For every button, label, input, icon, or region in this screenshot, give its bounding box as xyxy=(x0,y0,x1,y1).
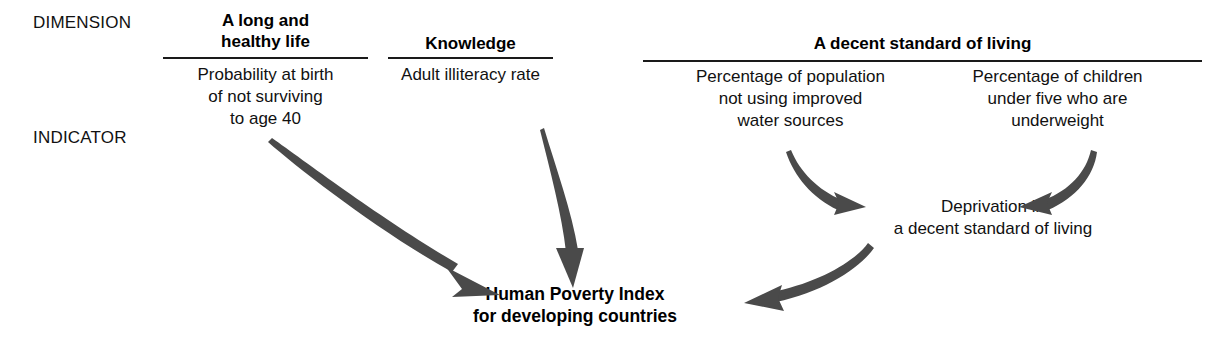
indicator-water: Percentage of populationnot using improv… xyxy=(668,66,913,132)
row-label-indicator: INDICATOR xyxy=(33,128,127,148)
indicator-underweight: Percentage of childrenunder five who are… xyxy=(940,66,1175,132)
node-deprivation: Deprivation ina decent standard of livin… xyxy=(868,196,1118,240)
hpi-diagram: DIMENSION INDICATOR A long andhealthy li… xyxy=(0,0,1226,357)
dimension-title-knowledge: Knowledge xyxy=(388,33,553,54)
dimension-title-living: A decent standard of living xyxy=(643,33,1202,54)
row-label-dimension: DIMENSION xyxy=(33,13,131,33)
arrow-illiteracy-to-hpi xyxy=(540,128,584,288)
divider-health xyxy=(163,57,368,59)
arrow-deprivation-to-hpi xyxy=(744,243,874,311)
node-human-poverty-index: Human Poverty Indexfor developing countr… xyxy=(432,283,718,327)
arrow-water-to-deprivation xyxy=(786,150,866,215)
dimension-title-health: A long andhealthy life xyxy=(163,10,368,52)
divider-living xyxy=(643,60,1202,62)
indicator-mortality: Probability at birthof not survivingto a… xyxy=(155,64,376,130)
divider-knowledge xyxy=(388,57,553,59)
indicator-illiteracy: Adult illiteracy rate xyxy=(378,64,563,86)
arrow-mortality-to-hpi xyxy=(268,138,500,297)
